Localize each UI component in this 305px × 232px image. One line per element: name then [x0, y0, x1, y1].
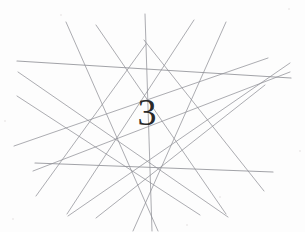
captcha-challenge-text: 3	[138, 91, 157, 133]
captcha-image: 3	[0, 0, 305, 232]
captcha-canvas: 3	[0, 0, 305, 232]
